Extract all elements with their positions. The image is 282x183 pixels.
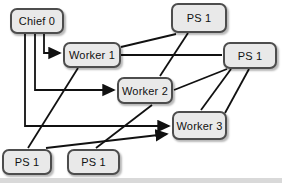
node-worker-3: Worker 3 [172,111,227,140]
node-chief-0: Chief 0 [10,8,64,34]
edge-chief-0-to-worker-1 [44,34,60,53]
node-ps-right: PS 1 [223,42,277,69]
node-worker-1: Worker 1 [63,42,121,68]
node-ps-top: PS 1 [171,3,227,33]
node-label-ps-bottom-mid: PS 1 [81,156,106,168]
edge-ps-right-to-worker-3-b [225,69,249,113]
node-label-ps-top: PS 1 [187,12,212,24]
node-ps-bottom-left: PS 1 [2,149,52,175]
diagram-canvas: Chief 0Worker 1Worker 2Worker 3PS 1PS 1P… [0,0,282,183]
node-label-ps-right: PS 1 [238,50,263,62]
node-label-worker-2: Worker 2 [122,85,168,97]
node-worker-2: Worker 2 [117,77,173,104]
node-label-chief-0: Chief 0 [19,15,55,27]
page-edge-strip [0,178,282,183]
node-label-worker-3: Worker 3 [176,120,222,132]
edge-ps-right-to-worker-3-a [201,69,231,110]
node-label-ps-bottom-left: PS 1 [15,156,40,168]
edge-worker-1-to-ps-top [121,34,176,47]
node-label-worker-1: Worker 1 [69,49,115,61]
node-ps-bottom-mid: PS 1 [67,149,120,175]
